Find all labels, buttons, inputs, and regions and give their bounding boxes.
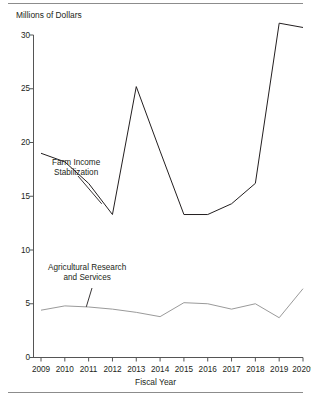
axis-lines — [34, 35, 304, 358]
y-axis-ticks — [30, 35, 34, 358]
chart-figure: Millions of Dollars Fiscal Year 30 25 20… — [0, 0, 311, 400]
annotation-leader-line-agricultural — [86, 288, 92, 307]
plot-area — [0, 0, 311, 400]
series-line-farm-income — [41, 23, 303, 214]
x-axis-ticks — [41, 358, 303, 362]
series-line-agricultural-research — [41, 289, 303, 318]
annotation-leader-line-farm — [78, 176, 102, 204]
